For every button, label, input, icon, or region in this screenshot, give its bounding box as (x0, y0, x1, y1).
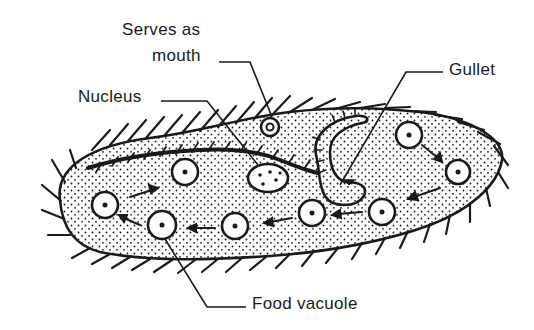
food-vacuole (172, 159, 198, 185)
paramecium-diagram (0, 0, 534, 330)
label-food-vacuole: Food vacuole (252, 295, 358, 312)
label-serves-as: Serves as (122, 21, 200, 38)
food-vacuole (299, 200, 325, 226)
label-gullet: Gullet (449, 61, 495, 78)
food-vacuole (369, 199, 395, 225)
label-mouth: mouth (152, 47, 201, 64)
food-vacuole (92, 192, 118, 218)
food-vacuole (446, 160, 470, 184)
food-vacuole (148, 211, 176, 239)
food-vacuole (396, 122, 422, 148)
nucleus (248, 164, 288, 192)
label-nucleus: Nucleus (78, 88, 142, 105)
mouth (261, 118, 279, 136)
food-vacuole (222, 213, 248, 239)
